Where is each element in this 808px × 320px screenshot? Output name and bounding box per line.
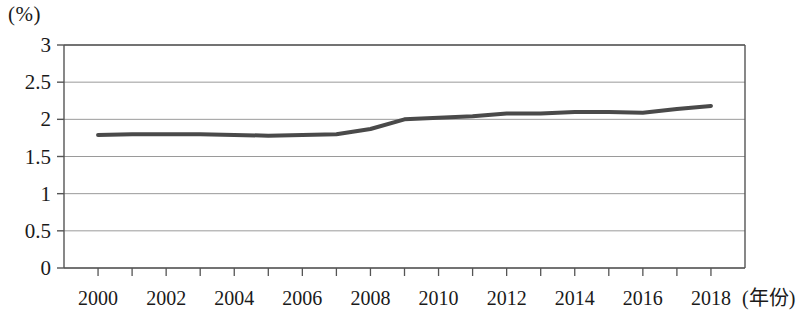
y-axis-tick-marks <box>57 45 64 268</box>
data-line <box>98 106 711 136</box>
x-tick-label: 2016 <box>623 288 663 308</box>
chart-figure: (%) 00.511.522.53 2000200220042006200820… <box>0 0 808 320</box>
line-chart-plot <box>0 0 808 320</box>
x-tick-label: 2004 <box>214 288 254 308</box>
y-tick-label: 3 <box>41 35 52 56</box>
y-tick-label: 2 <box>41 109 52 130</box>
y-tick-label: 1.5 <box>25 147 51 168</box>
x-tick-label: 2002 <box>146 288 186 308</box>
x-tick-label: 2010 <box>419 288 459 308</box>
y-tick-label: 1 <box>41 184 52 205</box>
x-tick-label: 2018 <box>691 288 731 308</box>
data-series-group <box>98 106 711 136</box>
y-tick-label: 2.5 <box>25 72 51 93</box>
x-tick-label: 2014 <box>555 288 595 308</box>
x-axis-title: (年份) <box>742 288 795 308</box>
gridlines-group <box>64 45 745 268</box>
x-tick-label: 2008 <box>350 288 390 308</box>
y-tick-label: 0.5 <box>25 221 51 242</box>
x-tick-label: 2012 <box>487 288 527 308</box>
x-tick-label: 2000 <box>78 288 118 308</box>
x-tick-label: 2006 <box>282 288 322 308</box>
y-tick-label: 0 <box>41 258 52 279</box>
x-axis-tick-marks <box>98 268 711 276</box>
